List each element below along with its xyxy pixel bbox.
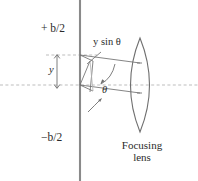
aperture-bottom-label: −b/2 (41, 131, 62, 143)
angle-pointer-arrow-lower (88, 98, 102, 112)
aperture-bottom-label-text: −b/2 (41, 131, 62, 143)
lens-ray-intercept-ticks (137, 63, 142, 93)
height-offset-label-text: y (49, 64, 54, 75)
optics-ray-diagram: + b/2 y sin θ y θ −b/2 Focusing lens (0, 0, 198, 181)
angle-arc-arrow-upper (100, 64, 115, 85)
angle-label-text: θ (102, 84, 107, 95)
path-difference-leader-line (87, 52, 101, 64)
focusing-lens-caption-line2: lens (112, 152, 172, 164)
y-dimension-arrow (54, 55, 60, 89)
height-offset-label: y (49, 64, 54, 75)
focusing-lens-caption: Focusing lens (112, 140, 172, 164)
aperture-top-label-text: + b/2 (41, 22, 65, 34)
path-difference-label-text: y sin θ (93, 36, 121, 47)
path-difference-label: y sin θ (93, 36, 121, 47)
angle-label: θ (102, 84, 107, 95)
aperture-top-label: + b/2 (41, 22, 65, 34)
